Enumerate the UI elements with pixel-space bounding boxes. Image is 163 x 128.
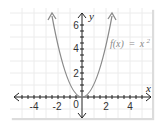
x-axis-label: x [145,82,151,94]
function-equals: = [128,38,135,49]
x-tick-label: -4 [30,101,39,112]
x-tick-label: 4 [127,101,133,112]
function-lhs: f(x) [110,38,125,50]
y-tick-label: 4 [73,43,79,54]
x-tick-label: 2 [103,101,109,112]
x-tick-label: -2 [53,101,62,112]
y-tick-label: 2 [73,68,79,79]
y-axis-label: y [88,10,94,22]
y-tick-label: 6 [73,20,79,31]
function-exponent: 2 [147,37,151,45]
y-axis [78,13,86,118]
function-label: f(x) = x 2 [110,37,151,50]
function-base: x [139,38,145,49]
function-graph: -4 -2 2 4 0 2 4 6 y x f(x) = x 2 [0,0,163,128]
origin-label: 0 [73,99,79,110]
